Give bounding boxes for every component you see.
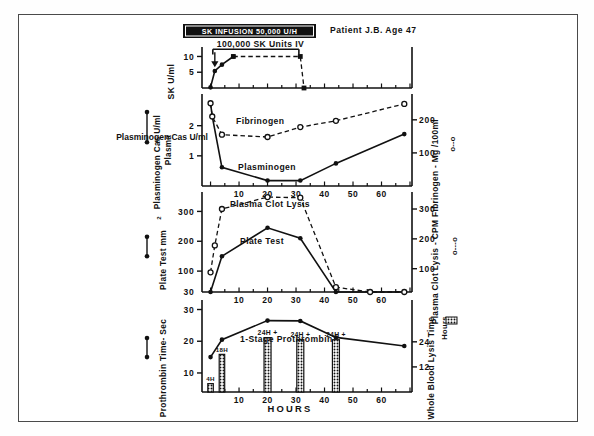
panel4-series-0-point bbox=[402, 344, 407, 349]
panel3-series-1-point bbox=[402, 290, 407, 295]
x-tick-label: 60 bbox=[376, 395, 387, 405]
sk-series-0-point bbox=[220, 62, 225, 67]
bolus-label: 100,000 SK Units IV bbox=[217, 39, 304, 49]
x-tick-label: 30 bbox=[291, 295, 302, 305]
panel2-series-1-point bbox=[402, 101, 407, 106]
sk-series-0-point bbox=[213, 69, 218, 74]
panel3-series-1-point bbox=[368, 290, 373, 295]
panel4-left-axis-label: Prothrombin Time- Sec bbox=[158, 319, 168, 417]
panel4-series-0-point bbox=[265, 318, 270, 323]
panel2-series-0-point bbox=[402, 132, 407, 137]
panel4-series-0-point bbox=[220, 337, 225, 342]
panel2-series-1-point bbox=[208, 101, 213, 106]
panel3-series-0-point bbox=[334, 290, 339, 295]
sk-series-1-point bbox=[231, 54, 236, 59]
plasminogen-label: Plasminogen bbox=[238, 162, 296, 172]
y-tick-label-left: 1 bbox=[189, 151, 195, 161]
x-tick-label: 10 bbox=[234, 395, 245, 405]
panel3-series-0-point bbox=[220, 254, 225, 259]
x-tick-label: 40 bbox=[319, 189, 330, 199]
x-tick-label: 10 bbox=[234, 189, 245, 199]
figure-canvas: SK INFUSION 50,000 U/HPatient J.B. Age 4… bbox=[0, 0, 594, 436]
panel4-right-axis-label: Whole Blood Lysis Time bbox=[426, 317, 436, 420]
panel4-series-0-point bbox=[208, 355, 213, 360]
x-axis-title: HOURS bbox=[268, 403, 313, 414]
x-tick-label: 50 bbox=[348, 395, 359, 405]
panel2-right-axis-label: Fibrinogen - Mg /100ml bbox=[430, 119, 440, 217]
panel1-left-axis-label: SK U/ml bbox=[166, 64, 176, 100]
panel2-series-1-point bbox=[210, 114, 215, 119]
plate-test-label: Plate Test bbox=[240, 236, 284, 246]
x-tick-label: 40 bbox=[319, 295, 330, 305]
lysis-time-bar bbox=[219, 354, 225, 392]
panel3-series-1-point bbox=[212, 243, 217, 248]
panel2-left-axis-sublabel: Plasma bbox=[164, 135, 173, 166]
lysis-time-bar bbox=[297, 340, 304, 392]
sk-infusion-label: SK INFUSION 50,000 U/H bbox=[202, 27, 298, 36]
hidden: Plasminogen Cas U/ml bbox=[116, 132, 208, 142]
panel3-series-0-point bbox=[298, 236, 303, 241]
panel2-left-axis-label: Plasminogen Cas U/ml bbox=[153, 115, 162, 209]
sk-series-0-point bbox=[208, 85, 213, 90]
x-tick-label: 50 bbox=[348, 295, 359, 305]
normal-range-endpoint bbox=[145, 140, 150, 145]
x-tick-label: 40 bbox=[319, 395, 330, 405]
panel3-left-axis-label: Plate Test mm bbox=[158, 230, 168, 290]
sk-series-1-line bbox=[233, 57, 304, 89]
x-tick-label: 10 bbox=[234, 295, 245, 305]
y-tick-label-left: 200 bbox=[178, 236, 195, 246]
sk-series-1-point bbox=[298, 54, 303, 59]
x-tick-label: 60 bbox=[376, 189, 387, 199]
panel2-series-0-point bbox=[265, 178, 270, 183]
panel2-right-axis-legend: o--o bbox=[448, 136, 457, 151]
lysis-time-bar bbox=[264, 338, 271, 392]
normal-range-endpoint bbox=[145, 355, 150, 360]
panel2-series-1-point bbox=[298, 125, 303, 130]
y-tick-label-left: 20 bbox=[183, 336, 194, 346]
bolus-arrow-head bbox=[211, 61, 218, 67]
y-tick-label-left: 30 bbox=[183, 305, 194, 315]
lysis-time-bar-label: 4H bbox=[206, 375, 215, 382]
y-tick-label-left: 2 bbox=[189, 121, 195, 131]
lysis-time-bar bbox=[208, 384, 214, 392]
x-tick-label: 60 bbox=[376, 295, 387, 305]
panel3-series-0-point bbox=[208, 290, 213, 295]
patient-label: Patient J.B. Age 47 bbox=[330, 25, 417, 35]
panel2-series-0-point bbox=[298, 178, 303, 183]
sk-series-1-point bbox=[302, 86, 307, 91]
panel4-right-axis-legend-swatch bbox=[446, 317, 457, 324]
normal-range-endpoint bbox=[145, 110, 150, 115]
x-tick-label: 50 bbox=[348, 189, 359, 199]
panel2-series-1-point bbox=[219, 132, 224, 137]
prothrombin-label: 1-Stage Prothrombin bbox=[240, 334, 333, 344]
panel4-series-0-point bbox=[334, 335, 339, 340]
chart-svg: SK INFUSION 50,000 U/HPatient J.B. Age 4… bbox=[0, 0, 594, 436]
y-tick-label-left: 10 bbox=[183, 52, 194, 62]
panel3-series-1-point bbox=[208, 270, 213, 275]
normal-range-endpoint bbox=[145, 234, 150, 239]
panel3-left-axis-exponent: 2 bbox=[156, 216, 162, 220]
panel3-right-axis-legend: o---o bbox=[450, 237, 459, 255]
panel3-series-1-point bbox=[219, 207, 224, 212]
panel2-series-0-point bbox=[334, 161, 339, 166]
panel2-series-1-point bbox=[265, 135, 270, 140]
figure-page: SK INFUSION 50,000 U/HPatient J.B. Age 4… bbox=[0, 0, 594, 436]
y-tick-label-left: 100 bbox=[178, 266, 195, 276]
fibrinogen-label: Fibrinogen bbox=[236, 116, 284, 126]
y-tick-label-left: 300 bbox=[178, 207, 195, 217]
y-tick-label-right: 300 bbox=[419, 204, 436, 214]
y-baseline-label-left: 30 bbox=[183, 287, 194, 297]
x-tick-label: 20 bbox=[262, 295, 273, 305]
panel3-right-axis-label: Plasma Clot Lysis - CPM bbox=[430, 220, 440, 324]
normal-range-endpoint bbox=[145, 336, 150, 341]
y-tick-label-left: 5 bbox=[189, 67, 195, 77]
panel2-series-0-point bbox=[220, 165, 225, 170]
panel3-series-1-point bbox=[333, 285, 338, 290]
panel3-series-0-point bbox=[265, 226, 270, 231]
normal-range-endpoint bbox=[145, 254, 150, 259]
lysis-time-bar bbox=[332, 340, 339, 392]
panel4-series-0-point bbox=[298, 319, 303, 324]
plasma-clot-lysis-label: Plasma Clot Lysis bbox=[230, 199, 310, 209]
panel2-series-1-point bbox=[333, 118, 338, 123]
y-tick-label-left: 10 bbox=[183, 368, 194, 378]
